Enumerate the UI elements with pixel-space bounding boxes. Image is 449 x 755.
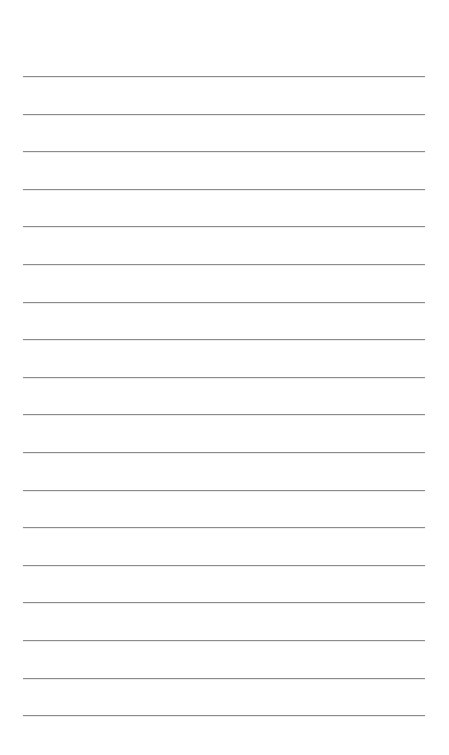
ruled-line: [23, 339, 425, 340]
ruled-line: [23, 414, 425, 415]
ruled-line: [23, 226, 425, 227]
ruled-line: [23, 640, 425, 641]
ruled-line: [23, 76, 425, 77]
ruled-line: [23, 490, 425, 491]
ruled-line: [23, 565, 425, 566]
ruled-line: [23, 114, 425, 115]
ruled-line: [23, 452, 425, 453]
ruled-line: [23, 302, 425, 303]
ruled-line: [23, 264, 425, 265]
ruled-line: [23, 377, 425, 378]
ruled-line: [23, 715, 425, 716]
ruled-line: [23, 189, 425, 190]
ruled-page: [0, 0, 449, 755]
ruled-line: [23, 527, 425, 528]
ruled-line: [23, 602, 425, 603]
ruled-line: [23, 678, 425, 679]
ruled-line: [23, 151, 425, 152]
